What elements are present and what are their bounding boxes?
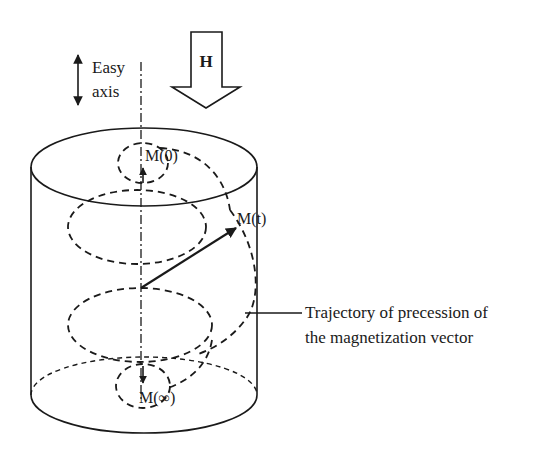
cylinder-top-edge xyxy=(31,128,257,206)
easy-axis-label-line1: Easy xyxy=(92,58,126,77)
precession-diagram: Easy axis H M(0) M(t) xyxy=(0,0,537,457)
easy-axis-label-line2: axis xyxy=(92,82,119,101)
field-h-label: H xyxy=(199,52,212,71)
mt-vector-arrow-icon xyxy=(141,228,236,288)
m0-label: M(0) xyxy=(145,147,178,165)
mt-label: M(t) xyxy=(237,210,266,228)
annotation-line2: the magnetization vector xyxy=(305,328,473,347)
minf-label: M(∞) xyxy=(139,389,175,407)
cylinder xyxy=(31,128,257,433)
annotation-line1: Trajectory of precession of xyxy=(305,303,488,322)
